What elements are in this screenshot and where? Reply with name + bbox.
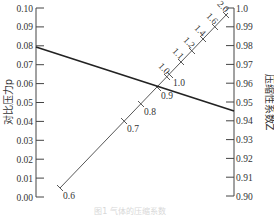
right-tick-label: 0.97: [236, 60, 253, 70]
diagonal-lower-tick-label: 0.8: [144, 107, 156, 117]
isopleth-line: [36, 47, 234, 111]
right-tick-label: 0.90: [236, 192, 253, 202]
figure-caption: 图1 气体的压缩系数: [94, 206, 166, 216]
diagonal-lower-tick-label: 0.7: [127, 124, 139, 134]
right-tick-label: 0.94: [236, 116, 253, 126]
diagonal-upper-tick-label: 2.0: [215, 0, 231, 15]
left-tick-label: 0.04: [16, 117, 33, 127]
right-tick-label: 0.98: [236, 41, 253, 51]
left-tick-label: 0.08: [16, 41, 33, 51]
nomogram-chart: 0.000.010.020.030.040.050.060.070.080.09…: [0, 0, 274, 217]
right-axis-title: 压缩性系数Z: [264, 74, 274, 131]
right-tick-label: 0.95: [236, 98, 253, 108]
right-tick-label: 0.93: [236, 135, 253, 145]
left-tick-label: 0.07: [16, 60, 33, 70]
left-tick-label: 0.09: [16, 22, 33, 32]
left-axis-title: 对比压力p: [2, 79, 14, 125]
left-tick-label: 0.06: [16, 79, 33, 89]
diagonal-lower-tick-label: 0.6: [63, 191, 75, 201]
diagonal-lower-tick-label: 1.0: [173, 78, 185, 88]
left-tick-label: 0.10: [16, 4, 33, 14]
left-tick-label: 0.05: [16, 98, 33, 108]
right-axis: 0.900.910.920.930.940.950.960.970.980.99…: [226, 4, 253, 202]
diagonal-lower-tick-label: 0.9: [161, 91, 173, 101]
right-tick-label: 0.92: [236, 154, 253, 164]
right-tick-label: 0.96: [236, 79, 253, 89]
left-tick-label: 0.03: [16, 136, 33, 146]
right-tick-label: 1.0: [236, 4, 248, 14]
diagonal-scale: 0.60.70.80.91.01.01.11.21.41.62.0: [57, 0, 231, 201]
left-tick-label: 0.02: [16, 155, 33, 165]
right-tick-label: 0.99: [236, 22, 253, 32]
left-tick-label: 0.01: [16, 174, 33, 184]
left-tick-label: 0.00: [16, 193, 33, 203]
left-axis: 0.000.010.020.030.040.050.060.070.080.09…: [16, 4, 44, 203]
right-tick-label: 0.91: [236, 173, 253, 183]
